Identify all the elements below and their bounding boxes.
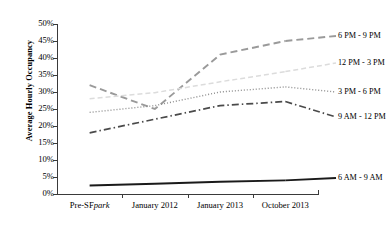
series-line xyxy=(90,87,286,113)
series-leader-line xyxy=(285,102,336,117)
series-label: 12 PM - 3 PM xyxy=(338,58,385,67)
x-category-label: October 2013 xyxy=(240,200,330,210)
series-leader-line xyxy=(285,178,336,180)
series-label: 6 AM - 9 AM xyxy=(338,173,383,182)
series-leader-line xyxy=(285,36,336,41)
series-leader-line xyxy=(285,63,336,72)
series-line xyxy=(90,180,286,185)
occupancy-line-chart: Average Hourly Occupancy 0%5%10%15%20%25… xyxy=(0,0,388,237)
series-label: 6 PM - 9 PM xyxy=(338,31,381,40)
series-line xyxy=(90,41,286,109)
series-label: 9 AM - 12 PM xyxy=(338,112,386,121)
series-leader-line xyxy=(285,87,336,92)
series-label: 3 PM - 6 PM xyxy=(338,87,381,96)
series-line xyxy=(90,72,286,99)
series-line xyxy=(90,102,286,133)
